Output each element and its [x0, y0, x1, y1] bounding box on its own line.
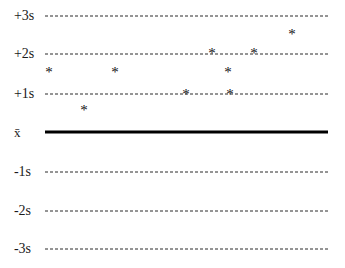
axis-tick-label: +2s	[14, 47, 34, 61]
axis-tick-label: -3s	[14, 242, 31, 256]
sigma-reference-line	[45, 54, 328, 55]
control-chart: +3s+2s+1sx̄-1s-2s-3s*********	[0, 0, 345, 268]
data-point-marker: *	[222, 65, 234, 77]
sigma-reference-line	[45, 211, 328, 212]
axis-tick-label: -2s	[14, 204, 31, 218]
data-point-marker: *	[224, 87, 236, 99]
data-point-marker: *	[286, 27, 298, 39]
axis-tick-label: x̄	[14, 126, 20, 139]
data-point-marker: *	[180, 87, 192, 99]
sigma-reference-line	[45, 16, 328, 17]
data-point-marker: *	[43, 65, 55, 77]
axis-tick-label: +1s	[14, 87, 34, 101]
data-point-marker: *	[206, 46, 218, 58]
data-point-marker: *	[109, 65, 121, 77]
axis-tick-label: +3s	[14, 9, 34, 23]
axis-tick-label: -1s	[14, 165, 31, 179]
data-point-marker: *	[248, 46, 260, 58]
mean-line	[45, 131, 328, 134]
sigma-reference-line	[45, 249, 328, 250]
sigma-reference-line	[45, 172, 328, 173]
data-point-marker: *	[78, 103, 90, 115]
